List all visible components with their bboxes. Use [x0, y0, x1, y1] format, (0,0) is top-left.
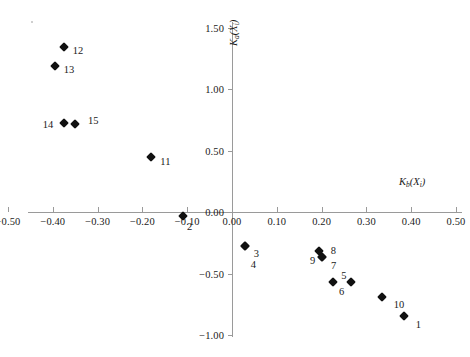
x-tick-label-0.00: 0.00: [223, 216, 242, 227]
data-point-label-13: 13: [64, 63, 75, 74]
x-tick-label-0.20: 0.20: [312, 216, 331, 227]
data-point-label-6: 6: [339, 286, 344, 297]
y-tick-label-1.50: 1.50: [182, 22, 224, 33]
data-point-label-15: 15: [88, 115, 99, 126]
y-tick-label-0.50: 0.50: [182, 145, 224, 156]
x-tick-0.30: [366, 207, 367, 212]
data-point-label-11: 11: [160, 156, 170, 167]
x-tick-label--0.50: −0.50: [0, 216, 20, 227]
y-tick-label--1.00: −1.00: [182, 330, 224, 341]
y-tick-1.00: [228, 89, 233, 90]
data-point-label-14: 14: [43, 118, 54, 129]
x-tick-0.00: [232, 207, 233, 212]
data-point-14: [59, 118, 69, 128]
x-tick-label-0.30: 0.30: [357, 216, 376, 227]
data-point-label-1: 1: [416, 318, 421, 329]
x-axis-line: [28, 212, 462, 213]
data-point-label-3: 3: [254, 247, 259, 258]
scatter-plot-figure: −0.50−0.40−0.30−0.20−0.100.000.100.200.3…: [0, 0, 470, 357]
x-tick-0.50: [456, 207, 457, 212]
data-point-label-7: 7: [331, 259, 336, 270]
data-point-label-2: 2: [187, 221, 192, 232]
x-tick-label-0.50: 0.50: [447, 216, 466, 227]
scan-artifact-speck: [31, 21, 33, 23]
data-point-12: [59, 42, 69, 52]
data-point-4: [240, 241, 250, 251]
y-tick-label-1.00: 1.00: [182, 84, 224, 95]
y-tick-label-0.00: 0.00: [182, 207, 224, 218]
y-tick--1.00: [228, 335, 233, 336]
data-point-label-8: 8: [331, 245, 336, 256]
x-tick--0.20: [142, 207, 143, 212]
x-tick-label-0.10: 0.10: [267, 216, 286, 227]
x-tick-label-0.40: 0.40: [402, 216, 421, 227]
x-tick-label--0.20: −0.20: [130, 216, 155, 227]
x-tick-label--0.30: −0.30: [85, 216, 110, 227]
y-tick-0.50: [228, 151, 233, 152]
y-axis-title: Ka(Xi): [228, 20, 239, 46]
x-tick-0.10: [277, 207, 278, 212]
data-point-label-12: 12: [73, 44, 84, 55]
x-tick-0.40: [411, 207, 412, 212]
data-point-label-4: 4: [251, 258, 256, 269]
data-point-1: [400, 311, 410, 321]
y-axis-line: [232, 22, 233, 337]
y-tick--0.50: [228, 274, 233, 275]
x-tick-0.20: [322, 207, 323, 212]
x-tick--0.50: [8, 207, 9, 212]
x-axis-title: Kb(Xi): [399, 176, 425, 187]
data-point-label-5: 5: [341, 270, 346, 281]
data-point-13: [50, 61, 60, 71]
data-point-15: [70, 119, 80, 129]
y-tick-label--0.50: −0.50: [182, 268, 224, 279]
x-tick--0.40: [53, 207, 54, 212]
data-point-label-10: 10: [394, 298, 405, 309]
data-point-6: [346, 277, 356, 287]
data-point-11: [146, 152, 156, 162]
x-tick-label--0.40: −0.40: [40, 216, 65, 227]
data-point-label-9: 9: [310, 254, 315, 265]
x-tick--0.30: [98, 207, 99, 212]
data-point-5: [328, 277, 338, 287]
data-point-10: [377, 292, 387, 302]
